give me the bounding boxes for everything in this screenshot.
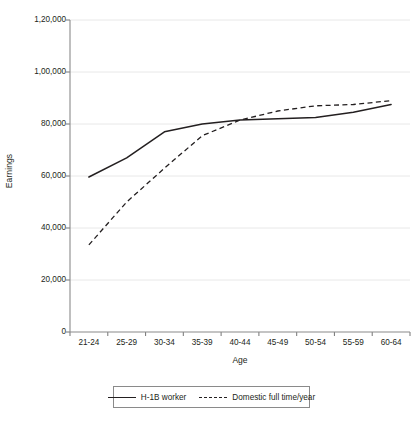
chart-legend: H-1B workerDomestic full time/year [113, 386, 310, 408]
x-axis-tick-labels: 21-2425-2930-3435-3940-4445-4950-5455-59… [70, 338, 410, 352]
x-axis-title: Age [70, 355, 410, 365]
legend-entry: Domestic full time/year [199, 393, 315, 402]
legend-label: H-1B worker [141, 393, 187, 402]
x-tick-label: 30-34 [144, 338, 184, 347]
x-tick-label: 25-29 [107, 338, 147, 347]
x-tick-label: 55-59 [333, 338, 373, 347]
x-tick-label: 50-54 [296, 338, 336, 347]
gridlines [70, 20, 410, 280]
legend-line-swatch-solid [108, 397, 136, 398]
x-tick-label: 40-44 [220, 338, 260, 347]
x-axis-tick-marks [70, 332, 410, 336]
x-tick-label: 60-64 [371, 338, 411, 347]
legend-entry: H-1B worker [108, 393, 187, 402]
legend-label: Domestic full time/year [232, 393, 315, 402]
earnings-by-age-line-chart: Earnings 020,00040,00060,00080,0001,00,0… [0, 0, 419, 421]
legend-entries: H-1B workerDomestic full time/year [114, 387, 309, 407]
x-tick-label: 21-24 [69, 338, 109, 347]
series-line-domestic-full-time [89, 101, 391, 245]
x-tick-label: 45-49 [258, 338, 298, 347]
series-line-h1b-worker [89, 105, 391, 178]
legend-line-swatch-dashed [199, 397, 227, 398]
x-tick-label: 35-39 [182, 338, 222, 347]
y-axis-tick-marks [66, 20, 70, 332]
